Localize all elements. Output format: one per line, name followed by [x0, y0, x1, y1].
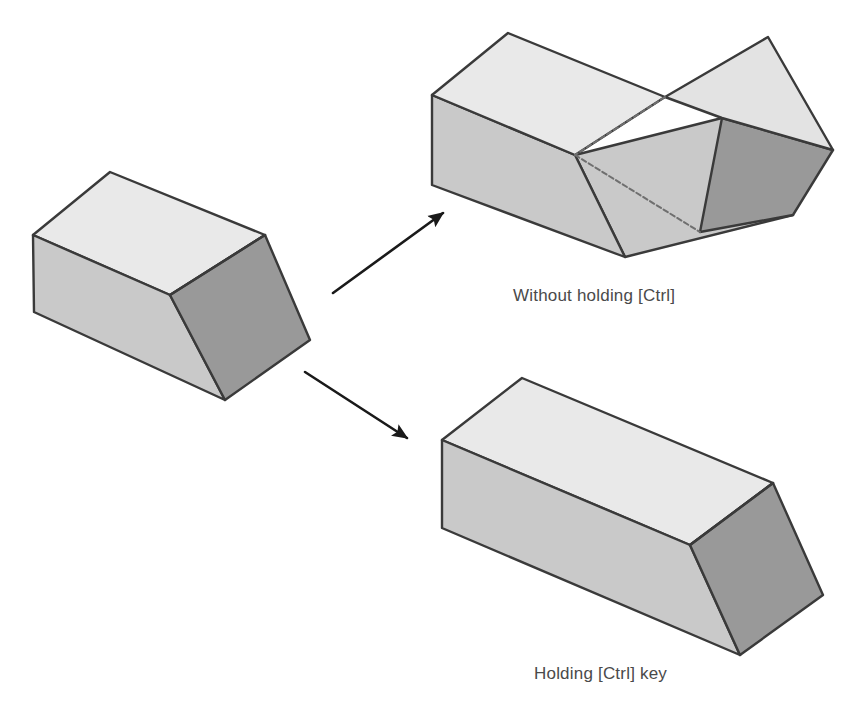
arrow-to-holding-ctrl: [305, 372, 407, 438]
bent-chevron-solid[interactable]: [432, 33, 833, 257]
source-wedge-solid[interactable]: [33, 172, 310, 400]
caption-holding-ctrl: Holding [Ctrl] key: [534, 664, 667, 684]
diagram-canvas: [0, 0, 863, 719]
elongated-wedge-solid[interactable]: [442, 378, 823, 655]
arrow-to-without-ctrl: [333, 213, 443, 293]
caption-without-ctrl: Without holding [Ctrl]: [513, 286, 675, 306]
